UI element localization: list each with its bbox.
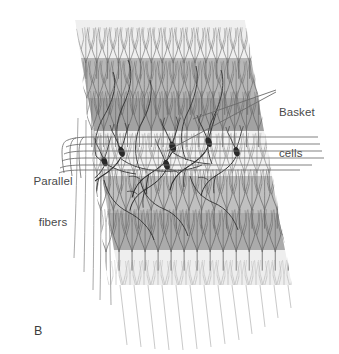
label-basket-cells: Basket cells (279, 79, 315, 187)
figure-panel-b: Basket cells Parallel fibers B (0, 0, 339, 354)
band-1 (75, 20, 251, 58)
label-parallel-fibers: Parallel fibers (22, 148, 84, 256)
label-parallel-fibers-line2: fibers (22, 216, 84, 230)
panel-letter: B (34, 325, 42, 339)
label-basket-cells-line1: Basket (279, 106, 315, 120)
label-basket-cells-line2: cells (279, 147, 315, 161)
label-parallel-fibers-line1: Parallel (22, 175, 84, 189)
